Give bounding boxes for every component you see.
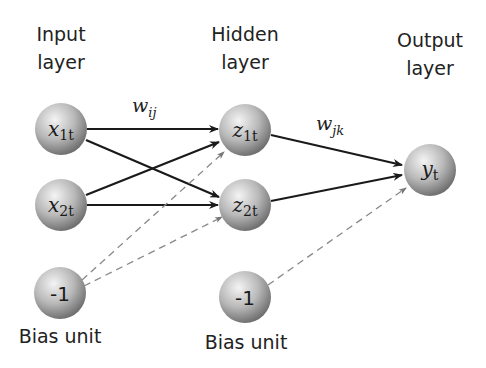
hidden-output-edges — [271, 135, 402, 201]
edge-z1-y — [271, 135, 402, 165]
node-z1: z1t — [219, 104, 271, 156]
node-bias-input-label: -1 — [50, 282, 70, 306]
neural-network-diagram: Input layer Hidden layer Output layer — [0, 0, 486, 368]
node-bias-input: -1 — [34, 267, 86, 319]
edge-x2-z1 — [86, 142, 219, 195]
weight-wij-sub: ij — [148, 105, 156, 120]
network-graph: x1t x2t -1 z1t z2t -1 yt — [0, 0, 486, 368]
edge-bias1-z1 — [82, 152, 224, 280]
input-hidden-edges — [86, 129, 219, 205]
weight-wij-base: w — [132, 94, 148, 116]
weight-label-wij: wij — [132, 94, 156, 120]
edge-z2-y — [271, 175, 402, 201]
weight-wjk-base: w — [316, 112, 332, 134]
weight-wjk-sub: jk — [332, 123, 344, 138]
node-x2: x2t — [35, 179, 87, 231]
node-x1: x1t — [35, 103, 87, 155]
node-bias-hidden-label: -1 — [235, 286, 255, 310]
edge-bias1-z2 — [84, 217, 222, 286]
hidden-bias-label: Bias unit — [176, 331, 316, 353]
node-y: yt — [404, 144, 456, 196]
node-bias-hidden: -1 — [219, 271, 271, 323]
edge-bias2-y — [268, 188, 406, 285]
weight-label-wjk: wjk — [316, 112, 344, 138]
input-bias-label: Bias unit — [0, 325, 130, 347]
node-z2: z2t — [219, 179, 271, 231]
